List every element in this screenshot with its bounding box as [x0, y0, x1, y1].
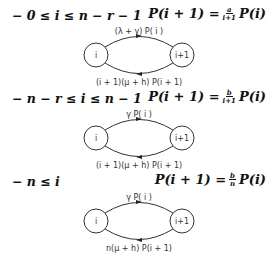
- state-diagram-3: i i+1 γ P( i ) n(μ + h) P(i + 1): [0, 188, 276, 265]
- equation-1-fraction: a i+1: [223, 6, 236, 21]
- bottom-rate-label: (i + 1)(μ + h) P(i + 1): [96, 161, 182, 170]
- equation-2-fraction: b i+1: [223, 89, 236, 104]
- state-right-label: i+1: [175, 217, 189, 226]
- state-left-label: i: [95, 51, 97, 60]
- state-right-label: i+1: [175, 134, 189, 143]
- fraction-denominator: n: [230, 180, 235, 187]
- condition-3: − n ≤ i: [12, 174, 60, 189]
- equation-3-lhs: P(i + 1) =: [155, 172, 226, 187]
- equation-2-lhs: P(i + 1) =: [148, 89, 219, 104]
- state-right-label: i+1: [175, 51, 189, 60]
- backward-arc: [105, 63, 173, 74]
- bottom-rate-label: (i + 1)(μ + h) P(i + 1): [96, 78, 182, 87]
- state-left-label: i: [95, 217, 97, 226]
- forward-arc: [105, 203, 173, 214]
- equation-3: P(i + 1) = b n P(i): [155, 172, 266, 187]
- equation-1-rhs: P(i): [239, 6, 266, 21]
- backward-arc: [105, 146, 173, 157]
- top-rate-label: (λ + γ) P( i ): [115, 27, 163, 36]
- forward-arc: [105, 120, 173, 131]
- equation-1-lhs: P(i + 1) =: [148, 6, 219, 21]
- equation-2: P(i + 1) = b i+1 P(i): [148, 89, 266, 104]
- top-rate-label: γ P( i ): [126, 193, 152, 202]
- top-rate-label: γ P( i ): [126, 110, 152, 119]
- arrow-left-icon: [136, 72, 142, 76]
- arrow-left-icon: [136, 155, 142, 159]
- equation-3-rhs: P(i): [239, 172, 266, 187]
- condition-1: − 0 ≤ i ≤ n − r − 1: [12, 8, 141, 23]
- fraction-denominator: i+1: [223, 14, 236, 21]
- state-left-label: i: [95, 134, 97, 143]
- fraction-denominator: i+1: [223, 97, 236, 104]
- backward-arc: [105, 229, 173, 240]
- equation-1: P(i + 1) = a i+1 P(i): [148, 6, 266, 21]
- forward-arc: [105, 37, 173, 48]
- bottom-rate-label: n(μ + h) P(i + 1): [106, 244, 172, 253]
- equation-2-rhs: P(i): [239, 89, 266, 104]
- condition-2: − n − r ≤ i ≤ n − 1: [12, 91, 142, 106]
- arrow-left-icon: [136, 238, 142, 242]
- equation-3-fraction: b n: [229, 172, 236, 187]
